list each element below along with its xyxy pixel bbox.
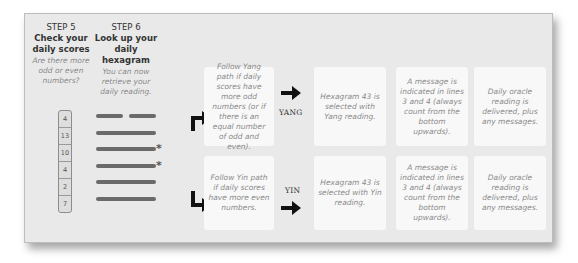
hexagram-bar [96, 131, 156, 135]
step-5-title-line1: Check your [31, 33, 91, 44]
right-arrow-icon [280, 200, 302, 216]
step-5-sub-line1: Are there more [31, 56, 91, 66]
hexagram-line-solid [96, 197, 158, 201]
hexagram-line-broken [96, 114, 158, 118]
score-cell: 4 [59, 162, 71, 179]
hexagram-bar [96, 164, 156, 168]
hexagram-line-solid [96, 131, 158, 135]
yin-hexagram-box: Hexagram 43 is selected with Yin reading… [314, 156, 386, 230]
step-6-label: STEP 6 [91, 22, 161, 33]
step-5-title-line2: daily scores [31, 44, 91, 55]
step-6-title-line2: daily hexagram [91, 44, 161, 66]
hexagram: * * [96, 114, 158, 213]
score-cell: 13 [59, 128, 71, 145]
step-5-label: STEP 5 [31, 22, 91, 33]
hexagram-line-solid-marked: * [96, 147, 158, 151]
hexagram-bar [96, 180, 156, 184]
hexagram-line-solid-marked: * [96, 164, 158, 168]
yang-hexagram-box: Hexagram 43 is selected with Yang readin… [314, 67, 386, 146]
yin-label: YIN [285, 186, 300, 195]
score-cell: 7 [59, 196, 71, 212]
asterisk-marker-icon: * [156, 143, 162, 154]
yang-label: YANG [279, 108, 303, 117]
oracle-steps-panel: STEP 5 Check your daily scores Are there… [24, 13, 553, 243]
step-6-header: STEP 6 Look up your daily hexagram You c… [91, 22, 161, 97]
step-6-sub-line1: You can now [91, 67, 161, 77]
step-6-title-line1: Look up your [91, 33, 161, 44]
yin-result-box: Daily oracle reading is delivered, plus … [474, 156, 546, 230]
yang-message-box: A message is indicated in lines 3 and 4 … [396, 67, 468, 146]
yang-result-box: Daily oracle reading is delivered, plus … [474, 67, 546, 146]
step-6-sub-line2: retrieve your [91, 77, 161, 87]
score-cell: 2 [59, 179, 71, 196]
daily-scores-column: 4 13 10 4 2 7 [58, 110, 72, 213]
hexagram-bar-segment [96, 114, 123, 118]
step-6-sub-line3: daily reading. [91, 87, 161, 97]
hexagram-bar-segment [129, 114, 156, 118]
hexagram-bar [96, 147, 156, 151]
step-5-header: STEP 5 Check your daily scores Are there… [31, 22, 91, 86]
asterisk-marker-icon: * [156, 160, 162, 171]
step-5-sub-line2: odd or even [31, 66, 91, 76]
yin-condition-box: Follow Yin path if daily scores have mor… [204, 156, 274, 230]
yang-condition-box: Follow Yang path if daily scores have mo… [204, 67, 274, 146]
step-5-sub-line3: numbers? [31, 76, 91, 86]
hexagram-line-solid [96, 180, 158, 184]
score-cell: 4 [59, 111, 71, 128]
right-arrow-icon [280, 85, 302, 101]
hexagram-bar [96, 197, 156, 201]
yin-message-box: A message is indicated in lines 3 and 4 … [396, 156, 468, 230]
score-cell: 10 [59, 145, 71, 162]
